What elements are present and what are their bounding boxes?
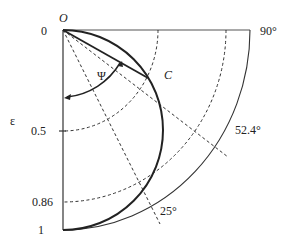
angle-label-25: 25° [160, 205, 177, 217]
psi-arrowhead-icon [64, 94, 71, 100]
point-c-label: C [164, 69, 172, 81]
angle-label-90: 90° [260, 25, 277, 37]
tick-label-0: 0 [41, 25, 47, 37]
tick-label-0.5: 0.5 [31, 125, 46, 137]
dashed-arc-0.5 [63, 30, 158, 131]
angle-label-52.4: 52.4° [235, 124, 261, 136]
epsilon-axis-label: ε [10, 115, 15, 127]
radial-25 [63, 30, 160, 224]
radial-52.4 [63, 30, 228, 157]
tick-label-0.86: 0.86 [32, 196, 53, 208]
psi-label: Ψ [97, 70, 106, 82]
outer-arc [63, 30, 250, 230]
dashed-arc-0.86 [63, 30, 226, 202]
tick-label-1: 1 [38, 224, 44, 236]
origin-label: O [59, 12, 68, 24]
